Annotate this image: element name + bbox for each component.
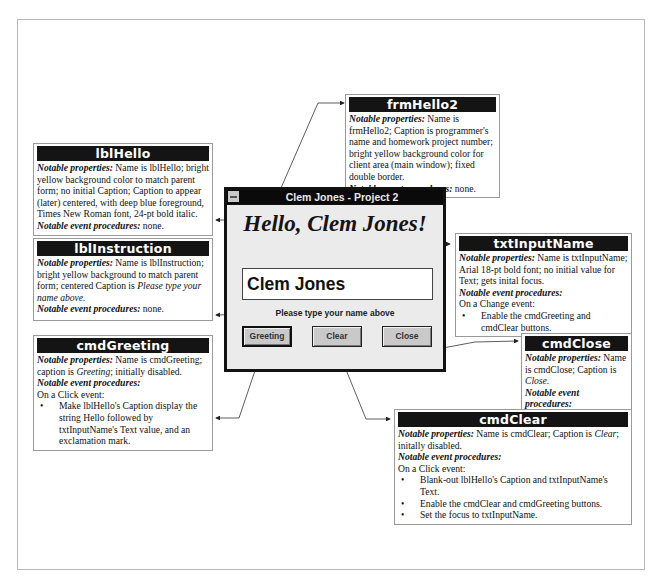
callout-title: frmHello2 — [349, 97, 496, 112]
callout-properties: Notable properties: Name is cmdGreeting;… — [37, 354, 209, 377]
callout-events-label: Notable event procedures: — [459, 287, 628, 299]
callout-properties: Notable properties: Name is txtInputName… — [459, 252, 628, 287]
window-client-area: Hello, Clem Jones! Clem Jones Please typ… — [227, 205, 443, 369]
clear-button[interactable]: Clear — [312, 326, 362, 347]
bullet-item: Blank-out lblHello's Caption and txtInpu… — [398, 474, 628, 497]
callout-title: lblInstruction — [37, 241, 209, 256]
callout-title: cmdClear — [398, 412, 628, 427]
callout-lblInstruction: lblInstruction Notable properties: Name … — [33, 238, 213, 321]
window-title: Clem Jones - Project 2 — [227, 190, 443, 204]
callout-bullets: Make lblHello's Caption display the stri… — [37, 400, 209, 446]
callout-cmdGreeting: cmdGreeting Notable properties: Name is … — [33, 335, 213, 451]
txtInputName-textbox[interactable]: Clem Jones — [242, 268, 433, 300]
close-button[interactable]: Close — [382, 326, 432, 347]
callout-properties: Notable properties: Name is cmdClear; Ca… — [398, 428, 628, 451]
callout-properties: Notable properties: Name is cmdClose; Ca… — [525, 352, 628, 387]
callout-title: cmdGreeting — [37, 338, 209, 353]
callout-properties: Notable properties: Name is lblInstructi… — [37, 257, 209, 303]
callout-event-intro: On a Click event: — [37, 389, 209, 401]
callout-events-label: Notable event procedures: — [525, 387, 628, 410]
system-menu-icon[interactable] — [228, 191, 239, 202]
callout-events-label: Notable event procedures: — [398, 451, 628, 463]
callout-lblHello: lblHello Notable properties: Name is lbl… — [33, 143, 213, 236]
callout-txtInputName: txtInputName Notable properties: Name is… — [455, 233, 632, 337]
bullet-item: Make lblHello's Caption display the stri… — [37, 400, 209, 446]
callout-title: cmdClose — [525, 336, 628, 351]
lblInstruction-label: Please type your name above — [227, 308, 443, 318]
callout-cmdClear: cmdClear Notable properties: Name is cmd… — [394, 409, 632, 525]
callout-events: Notable event procedures: none. — [37, 220, 209, 232]
callout-title: txtInputName — [459, 236, 628, 251]
bullet-item: Enable the cmdClear and cmdGreeting butt… — [398, 498, 628, 510]
callout-events-label: Notable event procedures: — [37, 377, 209, 389]
bullet-item: Enable the cmdGreeting and cmdClear butt… — [459, 310, 628, 333]
callout-event-intro: On a Change event: — [459, 298, 628, 310]
callout-title: lblHello — [37, 146, 209, 161]
callout-frmHello2: frmHello2 Notable properties: Name is fr… — [345, 94, 500, 198]
form-window-frmHello2: Clem Jones - Project 2 Hello, Clem Jones… — [224, 187, 446, 372]
callout-properties: Notable properties: Name is frmHello2; C… — [349, 113, 496, 183]
callout-events: Notable event procedures: none. — [37, 303, 209, 315]
window-titlebar[interactable]: Clem Jones - Project 2 — [227, 190, 443, 204]
bullet-item: Set the focus to txtInputName. — [398, 509, 628, 521]
callout-properties: Notable properties: Name is lblHello; br… — [37, 162, 209, 220]
callout-event-intro: On a Click event: — [398, 463, 628, 475]
lblHello-label: Hello, Clem Jones! — [227, 211, 443, 237]
greeting-button[interactable]: Greeting — [242, 326, 292, 347]
callout-bullets: Enable the cmdGreeting and cmdClear butt… — [459, 310, 628, 333]
callout-bullets: Blank-out lblHello's Caption and txtInpu… — [398, 474, 628, 520]
